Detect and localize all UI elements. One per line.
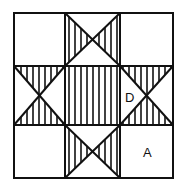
top-cell-right-triangle xyxy=(93,13,121,66)
top-cell-left-triangle xyxy=(65,13,93,66)
bottom-cell-right-triangle xyxy=(93,125,121,178)
center-square xyxy=(65,66,120,125)
left-cell-bottom-triangle xyxy=(14,96,65,126)
label-a: A xyxy=(143,145,152,160)
bottom-cell-left-triangle xyxy=(65,125,93,178)
left-cell-top-triangle xyxy=(14,66,65,96)
label-d: D xyxy=(125,90,134,105)
quilt-star-diagram: D A xyxy=(0,0,180,186)
